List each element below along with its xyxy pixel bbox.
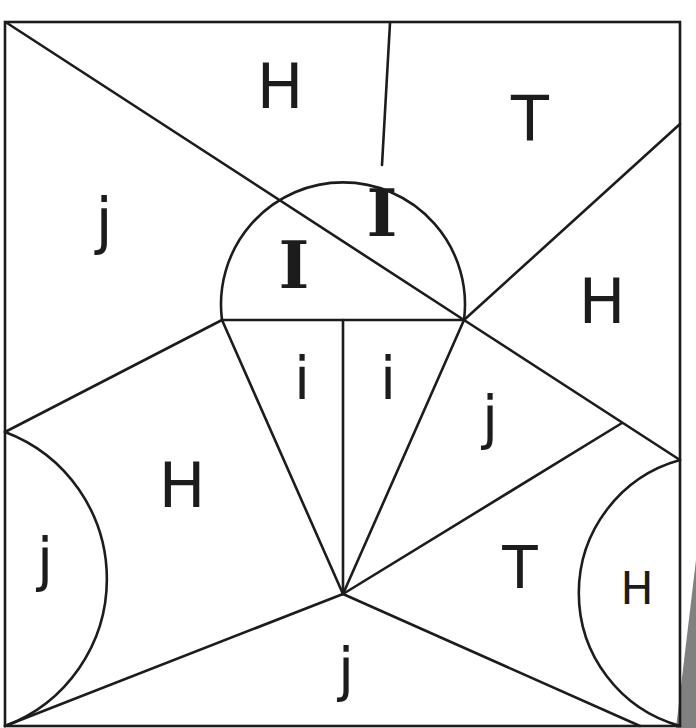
diagonal-line: [7, 23, 464, 320]
region-label: j: [336, 636, 354, 704]
right-upper-line: [464, 124, 680, 320]
region-label: i: [294, 345, 310, 413]
region-label: j: [35, 526, 53, 594]
region-label: j: [480, 384, 498, 452]
cone-right-edge: [343, 320, 464, 594]
cone-left-edge: [222, 320, 343, 594]
region-label: H: [159, 449, 206, 522]
region-label: I: [367, 174, 398, 252]
left-arc: [5, 432, 107, 726]
top-divider: [382, 23, 390, 165]
puzzle-diagram: H T j I I H i i j H j T H j: [0, 0, 696, 728]
region-label: H: [257, 50, 304, 123]
region-label: I: [279, 226, 310, 304]
bottom-left-line: [5, 594, 343, 726]
region-label: H: [620, 563, 653, 614]
region-label: T: [501, 534, 538, 602]
region-label: j: [93, 184, 112, 257]
region-label: H: [579, 265, 626, 338]
region-label: T: [510, 82, 550, 155]
dome-arc: [221, 182, 465, 320]
left-upper-line: [5, 320, 222, 432]
region-label: i: [380, 345, 396, 413]
